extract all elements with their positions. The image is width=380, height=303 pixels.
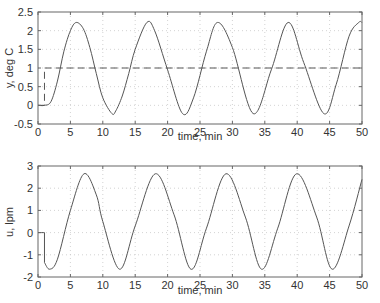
y-tick-label: -2 <box>23 271 33 283</box>
x-tick-label: 20 <box>161 126 173 138</box>
y-tick-label: 2 <box>27 182 33 194</box>
y-tick-label: 3 <box>27 160 33 172</box>
x-tick-label: 10 <box>97 279 109 291</box>
x-tick-label: 40 <box>291 126 303 138</box>
y-tick-label: 0.5 <box>18 81 33 93</box>
y-tick-label: 2 <box>27 25 33 37</box>
x-tick-label: 20 <box>161 279 173 291</box>
y-tick-label: 1 <box>27 62 33 74</box>
y-tick-label: 2.5 <box>18 6 33 18</box>
x-tick-label: 5 <box>67 126 73 138</box>
x-tick-label: 30 <box>226 279 238 291</box>
x-axis-label-top: time, min <box>178 130 223 142</box>
x-tick-label: 45 <box>323 126 335 138</box>
x-tick-label: 0 <box>35 126 41 138</box>
y-tick-label: 1 <box>27 204 33 216</box>
y-axis-label-top: y, deg C <box>3 48 15 88</box>
plot-u-flow: 05101520253035404550-2-10123 <box>23 160 368 291</box>
x-tick-label: 0 <box>35 279 41 291</box>
x-tick-label: 50 <box>356 126 368 138</box>
x-tick-label: 30 <box>226 126 238 138</box>
y-tick-label: 1.5 <box>18 43 33 55</box>
x-tick-label: 45 <box>323 279 335 291</box>
figure-canvas: 05101520253035404550-0.500.511.522.5 051… <box>0 0 380 303</box>
x-tick-label: 5 <box>67 279 73 291</box>
x-tick-label: 50 <box>356 279 368 291</box>
x-tick-label: 35 <box>259 126 271 138</box>
y-tick-label: 0 <box>27 99 33 111</box>
y-tick-label: -0.5 <box>14 118 33 130</box>
x-axis-label-bottom: time, min <box>178 284 223 296</box>
y-tick-label: 0 <box>27 227 33 239</box>
x-tick-label: 15 <box>129 126 141 138</box>
x-tick-label: 10 <box>97 126 109 138</box>
x-tick-label: 40 <box>291 279 303 291</box>
y-axis-label-bottom: u, lpm <box>3 207 15 237</box>
y-tick-label: -1 <box>23 249 33 261</box>
x-tick-label: 15 <box>129 279 141 291</box>
x-tick-label: 35 <box>259 279 271 291</box>
figure: 05101520253035404550-0.500.511.522.5 051… <box>0 0 380 303</box>
plot-y-temperature: 05101520253035404550-0.500.511.522.5 <box>14 6 368 138</box>
